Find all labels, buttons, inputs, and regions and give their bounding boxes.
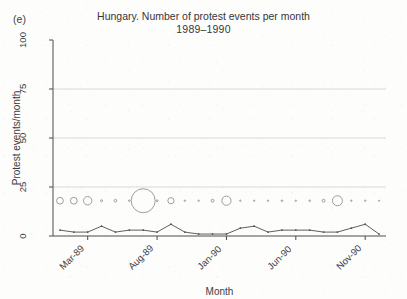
bubble-marker [351,200,352,201]
bubble-marker [222,196,231,205]
bubble-marker [281,200,283,202]
line-point-marker [350,227,352,229]
y-tick-label-100: 100 [16,17,30,63]
bubble-marker [267,200,268,201]
bubble-marker [332,196,342,206]
x-axis-title: Month [206,286,234,297]
bubble-marker [57,197,64,204]
line-point-marker [156,231,158,233]
line-point-marker [87,231,89,233]
line-point-marker [281,229,283,231]
line-point-marker [184,231,186,233]
bubble-marker [211,199,214,202]
bubble-marker [240,200,241,201]
line-point-marker [101,225,103,227]
line-point-marker [267,231,269,233]
line-point-marker [128,229,130,231]
line-point-marker [170,223,172,225]
bubble-marker [168,198,174,204]
bubble-marker [309,200,311,202]
bubble-marker [295,200,296,201]
bubble-marker [101,200,103,202]
line-point-marker [309,229,311,231]
line-point-marker [239,227,241,229]
bubble-marker [364,200,365,201]
line-point-marker [198,233,200,235]
bubble-marker [131,189,155,213]
figure-panel: (e) Hungary. Number of protest events pe… [0,0,407,299]
bubble-marker [129,200,131,202]
bubble-marker [70,197,77,204]
protest-events-line [60,224,379,234]
bubble-marker [322,199,325,202]
line-point-marker [323,231,325,233]
line-point-marker [364,223,366,225]
bubble-marker [253,200,254,201]
line-point-marker [295,229,297,231]
line-point-marker [59,229,61,231]
line-point-marker [378,233,380,235]
bubble-marker [378,200,379,201]
line-point-marker [212,233,214,235]
line-point-marker [73,231,75,233]
line-point-marker [337,231,339,233]
bubble-marker [114,199,117,202]
bubble-marker [83,197,91,205]
line-point-marker [253,225,255,227]
line-point-marker [226,233,228,235]
bubble-marker [184,200,185,201]
y-axis-title: Protest events/month [11,91,22,186]
line-point-marker [115,231,117,233]
bubble-marker [156,200,158,202]
bubble-marker [198,200,199,201]
line-point-marker [142,229,144,231]
y-tick-label-0: 0 [16,213,30,259]
